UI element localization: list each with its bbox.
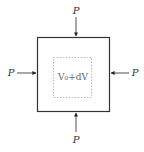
force-arrow-right: P <box>111 67 139 78</box>
force-arrow-left: P <box>7 67 36 78</box>
force-label-bottom: P <box>72 134 80 145</box>
force-label-right: P <box>131 67 139 78</box>
force-label-left: P <box>7 67 15 78</box>
force-arrow-top: P <box>72 5 80 36</box>
pressure-diagram: V₀+dV P P P P <box>0 0 144 152</box>
inner-volume-label: V₀+dV <box>57 72 88 82</box>
force-arrow-bottom: P <box>72 113 80 145</box>
force-label-top: P <box>72 5 80 16</box>
